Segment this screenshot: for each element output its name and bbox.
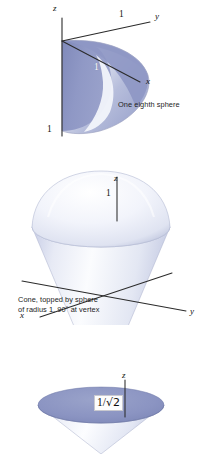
z-axis-tick-one: 1 bbox=[106, 188, 111, 198]
disk-radius-denominator: √2 bbox=[106, 396, 120, 409]
z-axis-label: z bbox=[122, 370, 126, 380]
figure-cone-with-disk: z 1/√2 bbox=[0, 325, 202, 454]
x-axis-tick-one: 1 bbox=[94, 62, 99, 72]
y-axis-label: y bbox=[155, 11, 159, 21]
one-eighth-sphere-drawing bbox=[0, 0, 202, 155]
sphere-octant-body bbox=[62, 40, 149, 133]
y-axis-label: y bbox=[190, 306, 194, 316]
disk-radius-label: 1/√2 bbox=[94, 395, 123, 411]
y-axis-line bbox=[62, 22, 150, 41]
figure-cone-topped-by-sphere: z y x 1 Cone, topped by sphere of radius… bbox=[0, 155, 202, 325]
figure-two-caption-line-2: of radius 1, 90° at vertex bbox=[18, 305, 100, 315]
z-axis-tick-one: 1 bbox=[47, 124, 52, 134]
x-axis-label: x bbox=[146, 76, 150, 86]
cone-with-disk-drawing bbox=[0, 325, 202, 454]
z-axis-label: z bbox=[53, 3, 57, 13]
sphere-cap bbox=[32, 171, 170, 247]
z-axis-label: z bbox=[114, 173, 118, 183]
y-axis-tick-one: 1 bbox=[119, 9, 124, 19]
figure-one-eighth-sphere: z y x 1 1 1 One eighth sphere bbox=[0, 0, 202, 155]
figure-one-caption: One eighth sphere bbox=[118, 100, 180, 110]
figure-two-caption-line-1: Cone, topped by sphere bbox=[18, 295, 98, 305]
